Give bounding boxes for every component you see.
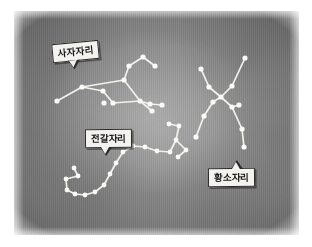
label-text-taurus: 황소자리: [214, 171, 249, 182]
callout-tail-fill-scorpius: [101, 147, 109, 154]
callout-tail-fill-leo: [69, 60, 78, 68]
label-text-scorpius: 전갈자리: [91, 132, 126, 143]
label-callout-scorpius: 전갈자리: [85, 129, 132, 148]
label-text-leo: 사자자리: [58, 44, 94, 58]
constellation-chart-image: 사자자리 전갈자리 황소자리: [0, 0, 312, 247]
callout-tail-fill-taurus: [232, 162, 240, 169]
label-callout-taurus: 황소자리: [208, 168, 255, 187]
